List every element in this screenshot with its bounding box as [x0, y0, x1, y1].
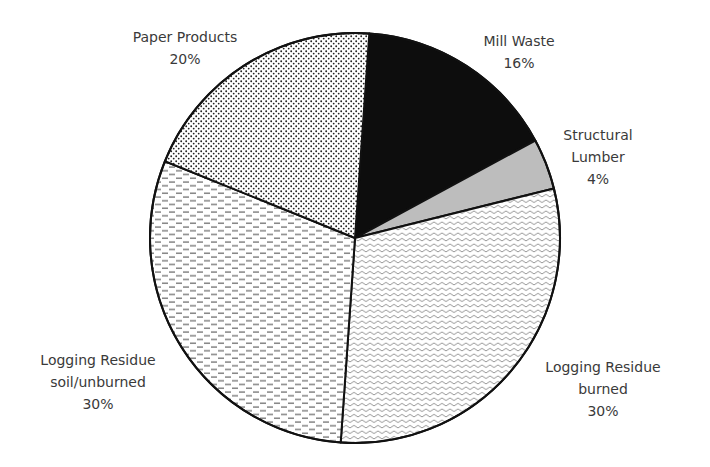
slice-name-line: Mill Waste: [483, 33, 554, 49]
pie-chart-svg: Mill Waste16%StructuralLumber4%Logging R…: [0, 0, 710, 467]
slice-name-line: burned: [578, 381, 628, 397]
slice-name-line: Structural: [563, 127, 632, 143]
slice-label-structural-lumber: StructuralLumber4%: [563, 127, 632, 187]
slice-percent: 30%: [587, 403, 618, 419]
slice-label-logging-residue-soil-unburned: Logging Residuesoil/unburned30%: [40, 352, 155, 412]
slice-name-line: Logging Residue: [40, 352, 155, 368]
slice-percent: 30%: [82, 396, 113, 412]
slice-label-paper-products: Paper Products20%: [133, 29, 238, 67]
slice-name-line: Paper Products: [133, 29, 238, 45]
pie-slices: [150, 33, 560, 443]
slice-percent: 16%: [503, 55, 534, 71]
slice-name-line: soil/unburned: [50, 374, 146, 390]
pie-chart: Mill Waste16%StructuralLumber4%Logging R…: [0, 0, 710, 467]
slice-label-logging-residue-burned: Logging Residueburned30%: [545, 359, 660, 419]
slice-label-mill-waste: Mill Waste16%: [483, 33, 554, 71]
slice-name-line: Logging Residue: [545, 359, 660, 375]
slice-percent: 4%: [587, 171, 609, 187]
slice-name-line: Lumber: [571, 149, 625, 165]
slice-percent: 20%: [169, 51, 200, 67]
